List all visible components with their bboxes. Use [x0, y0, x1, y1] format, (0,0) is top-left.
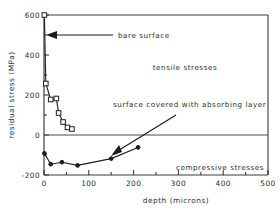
data-point [61, 120, 66, 125]
y-tick-label-0: 0 [35, 131, 40, 140]
x-tick-label-200: 200 [126, 179, 141, 188]
data-point [49, 162, 53, 166]
x-tick-label-400: 400 [216, 179, 231, 188]
x-axis-title: depth (microns) [143, 196, 209, 205]
data-point [70, 127, 75, 132]
annotation-tensile-stresses: tensile stresses [153, 63, 217, 72]
y-tick-label-400: 400 [25, 51, 40, 60]
annotation-bare-surface-label: bare surface [118, 31, 170, 40]
data-point [42, 13, 47, 18]
y-axis-title: residual stress (MPa) [7, 51, 16, 138]
data-point [136, 146, 140, 150]
x-tick-label-100: 100 [81, 179, 96, 188]
y-tick-label-minus200: -200 [22, 171, 40, 180]
chart-figure: 600 400 200 0 -200 0 100 200 300 400 [0, 0, 280, 216]
data-point [60, 160, 64, 164]
x-tick-label-0: 0 [41, 179, 46, 188]
residual-stress-depth-chart: 600 400 200 0 -200 0 100 200 300 400 [0, 0, 280, 216]
data-point [109, 157, 113, 161]
data-point [48, 97, 53, 102]
x-tick-label-300: 300 [171, 179, 186, 188]
x-tick-label-500: 500 [260, 179, 275, 188]
data-point [76, 164, 80, 168]
data-point [56, 111, 61, 116]
y-tick-label-200: 200 [25, 91, 40, 100]
data-point [43, 152, 47, 156]
data-point [44, 81, 49, 86]
data-point [54, 96, 59, 101]
annotation-absorbing-layer-label: surface covered with absorbing layer [113, 100, 266, 109]
y-tick-label-600: 600 [25, 11, 40, 20]
annotation-compressive-stresses: compressive stresses [176, 163, 264, 172]
